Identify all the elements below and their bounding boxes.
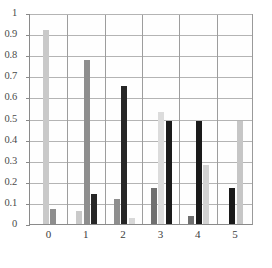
bar: [158, 112, 164, 224]
y-axis-tick-mark: [26, 77, 30, 78]
gridline-vertical: [105, 15, 106, 224]
bar: [229, 188, 235, 224]
bar: [91, 194, 97, 224]
y-axis-tick-mark: [26, 225, 30, 226]
y-axis-tick-label: 0.8: [0, 50, 17, 61]
x-axis-tick-label: 5: [220, 229, 250, 240]
bar: [121, 86, 127, 224]
gridline-horizontal: [30, 56, 252, 57]
gridline-horizontal: [30, 183, 252, 184]
gridline-vertical: [142, 15, 143, 224]
y-axis-tick-mark: [26, 162, 30, 163]
bar: [196, 121, 202, 224]
bar: [129, 218, 135, 224]
gridline-vertical: [67, 15, 68, 224]
y-axis-tick-label: 0.6: [0, 92, 17, 103]
y-axis-tick-mark: [26, 120, 30, 121]
bar: [76, 211, 82, 224]
x-axis-tick-label: 1: [71, 229, 101, 240]
y-axis-tick-mark: [26, 35, 30, 36]
x-axis-tick-label: 0: [33, 229, 63, 240]
y-axis-tick-label: 0.1: [0, 198, 17, 209]
gridline-horizontal: [30, 35, 252, 36]
bar: [203, 165, 209, 224]
y-axis-tick-mark: [26, 183, 30, 184]
bar: [237, 121, 243, 224]
bar: [43, 30, 49, 224]
y-axis-tick-mark: [26, 56, 30, 57]
plot-area: [29, 14, 253, 225]
bar: [50, 209, 56, 224]
gridline-horizontal: [30, 98, 252, 99]
y-axis-tick-mark: [26, 141, 30, 142]
gridline-vertical: [217, 15, 218, 224]
gridline-horizontal: [30, 77, 252, 78]
bar: [114, 199, 120, 224]
bar: [166, 121, 172, 224]
y-axis-tick-label: 0.4: [0, 135, 17, 146]
y-axis-tick-label: 1: [0, 8, 17, 19]
bar: [188, 216, 194, 224]
y-axis-tick-label: 0.2: [0, 177, 17, 188]
y-axis-tick-label: 0.9: [0, 29, 17, 40]
y-axis-tick-mark: [26, 14, 30, 15]
bar-chart: 00.10.20.30.40.50.60.70.80.91 012345: [0, 0, 272, 268]
y-axis-tick-label: 0.5: [0, 114, 17, 125]
x-axis-tick-label: 2: [108, 229, 138, 240]
x-axis-tick-label: 4: [183, 229, 213, 240]
y-axis-tick-mark: [26, 98, 30, 99]
x-axis-tick-label: 3: [145, 229, 175, 240]
bar: [151, 188, 157, 224]
y-axis-tick-label: 0.7: [0, 71, 17, 82]
y-axis-tick-label: 0: [0, 219, 17, 230]
gridline-horizontal: [30, 162, 252, 163]
y-axis-tick-label: 0.3: [0, 156, 17, 167]
gridline-vertical: [179, 15, 180, 224]
gridline-horizontal: [30, 141, 252, 142]
gridline-horizontal: [30, 120, 252, 121]
gridline-horizontal: [30, 204, 252, 205]
y-axis-tick-mark: [26, 204, 30, 205]
gridline-horizontal: [30, 14, 252, 15]
bar: [84, 60, 90, 224]
